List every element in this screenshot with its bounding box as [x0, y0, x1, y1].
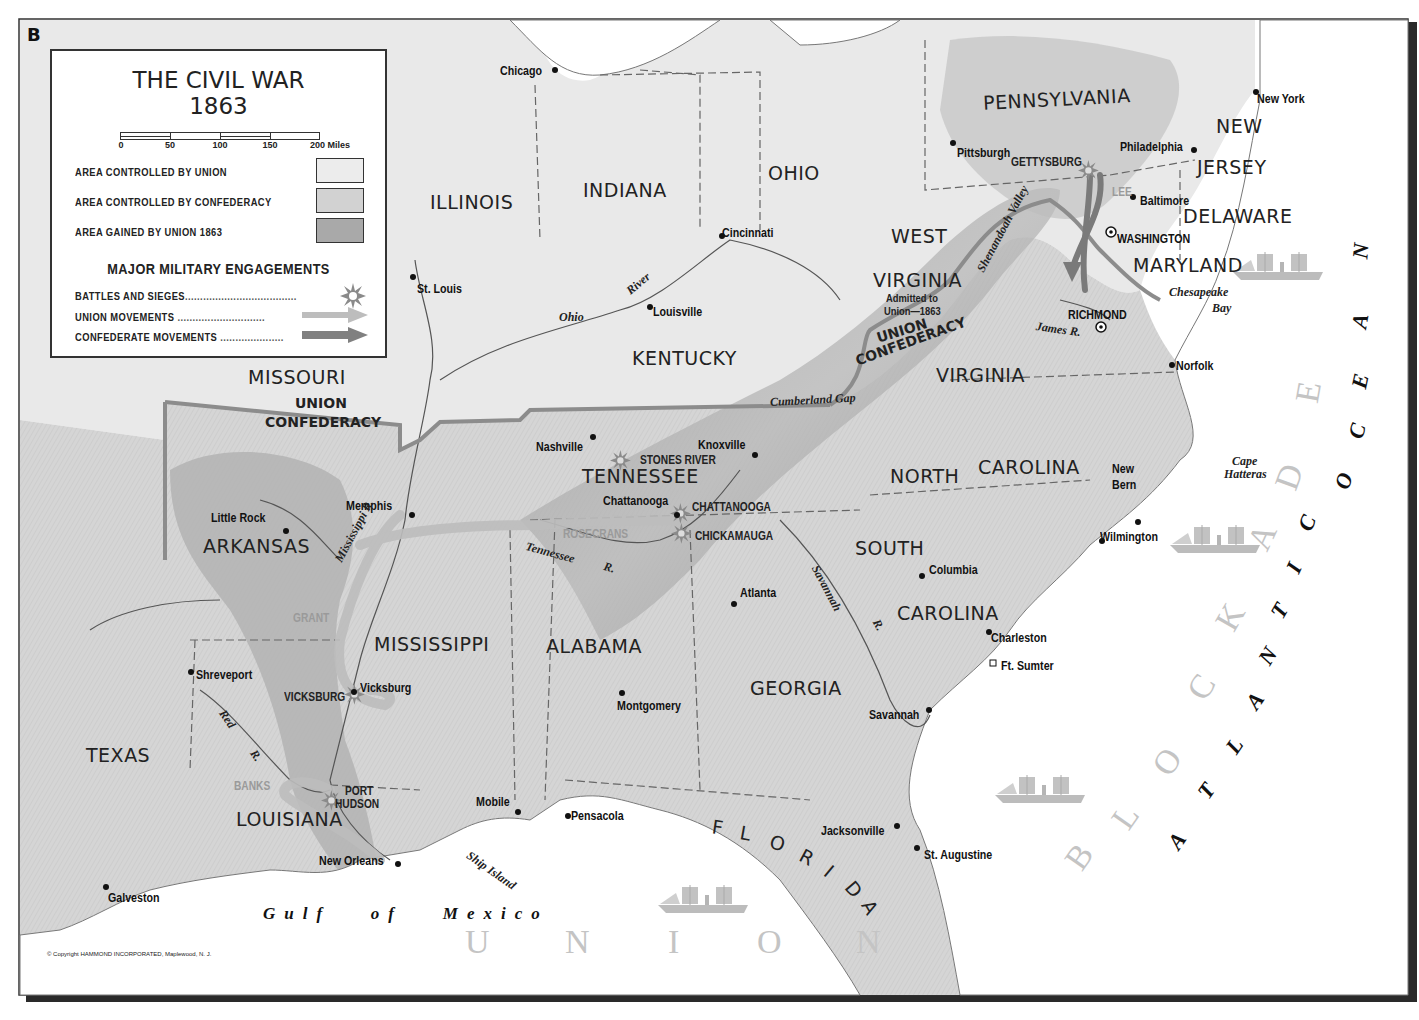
city-label: Philadelphia — [1120, 140, 1183, 153]
battle-burst-icon — [340, 283, 366, 309]
general-label: BANKS — [234, 780, 270, 792]
city-label: Chicago — [500, 64, 542, 77]
city-label: Atlanta — [740, 586, 776, 599]
city-dot — [752, 452, 758, 458]
city-dot — [188, 669, 194, 675]
battle-label: HUDSON — [335, 798, 379, 810]
city-dot — [351, 689, 357, 695]
union-blockade-letter: N — [565, 925, 590, 959]
city-label: New Orleans — [319, 854, 384, 867]
confederacy-area-swatch — [316, 188, 364, 213]
city-label: Norfolk — [1176, 359, 1213, 372]
city-dot — [926, 707, 932, 713]
city-dot — [409, 512, 415, 518]
union-arrow-icon — [302, 307, 368, 323]
city-dot — [619, 690, 625, 696]
state-label: GEORGIA — [750, 679, 842, 698]
city-dot — [515, 809, 521, 815]
city-label: St. Louis — [417, 282, 462, 295]
admitted-note: Admitted to — [886, 293, 938, 304]
city-label: Knoxville — [698, 438, 745, 451]
state-label: NORTH — [890, 467, 959, 486]
scale-tick: 150 — [262, 140, 277, 150]
city-label: New — [1112, 462, 1134, 475]
city-dot — [552, 67, 558, 73]
river-label: Hatteras — [1224, 468, 1267, 480]
state-label: JERSEY — [1197, 158, 1266, 177]
state-label: OHIO — [768, 164, 820, 183]
city-label: Charleston — [991, 631, 1047, 644]
scale-bar — [120, 132, 320, 140]
city-label: Jacksonville — [821, 824, 884, 837]
state-label: INDIANA — [583, 181, 667, 200]
scale-tick: 100 — [212, 140, 227, 150]
state-label: NEW — [1216, 117, 1263, 136]
state-label: LOUISIANA — [236, 810, 343, 829]
state-label: MARYLAND — [1133, 256, 1243, 275]
legend-year: 1863 — [52, 95, 385, 118]
engagements-title: MAJOR MILITARY ENGAGEMENTS — [77, 260, 360, 277]
city-label: Pittsburgh — [957, 146, 1010, 159]
city-label: Louisville — [653, 305, 702, 318]
city-label: Chattanooga — [603, 494, 668, 507]
city-dot — [410, 274, 416, 280]
state-label: ARKANSAS — [203, 537, 310, 556]
battle-label: CHATTANOOGA — [692, 501, 771, 513]
city-label: WASHINGTON — [1117, 232, 1190, 245]
legend-title: THE CIVIL WAR — [52, 69, 385, 92]
city-label: Vicksburg — [360, 681, 411, 694]
city-label: Wilmington — [1100, 530, 1158, 543]
union-blockade-letter: U — [465, 925, 490, 959]
city-dot — [395, 861, 401, 867]
legend-battles-label: BATTLES AND SIEGES......................… — [75, 290, 297, 302]
battle-label: PORT — [345, 785, 373, 797]
boundary-label: UNION — [295, 396, 347, 410]
state-label: ILLINOIS — [430, 193, 513, 212]
city-label: Bern — [1112, 478, 1136, 491]
admitted-note: Union—1863 — [884, 306, 941, 317]
state-label: VIRGINIA — [936, 366, 1025, 385]
battle-label: CHICKAMAUGA — [695, 530, 773, 542]
state-label: ALABAMA — [546, 637, 642, 656]
state-label: MISSISSIPPI — [374, 635, 489, 654]
state-label: TEXAS — [86, 746, 150, 765]
city-dot — [894, 823, 900, 829]
general-label: ROSECRANS — [563, 528, 628, 540]
ft-sumter-marker — [990, 660, 996, 666]
legend-confederate-movements-label: CONFEDERATE MOVEMENTS ..................… — [75, 331, 284, 343]
scale-tick: 200 Miles — [310, 140, 350, 150]
river-label: Bay — [1212, 302, 1231, 314]
city-label: Mobile — [476, 795, 510, 808]
legend-gained-area-label: AREA GAINED BY UNION 1863 — [75, 226, 222, 238]
river-label: Ohio — [559, 311, 584, 323]
state-label: VIRGINIA — [873, 271, 962, 290]
union-blockade-letter: I — [668, 925, 679, 959]
city-label: Cincinnati — [722, 226, 774, 239]
state-label: MISSOURI — [248, 368, 346, 387]
city-dot — [1135, 519, 1141, 525]
city-dot — [283, 528, 289, 534]
scale-tick: 50 — [165, 140, 175, 150]
city-label: Ft. Sumter — [1001, 659, 1054, 672]
city-dot — [914, 845, 920, 851]
state-label: SOUTH — [855, 539, 924, 558]
legend-union-area-label: AREA CONTROLLED BY UNION — [75, 166, 227, 178]
battle-label: GETTYSBURG — [1011, 156, 1082, 168]
gulf-of-mexico-label: Gulf of Mexico — [263, 905, 549, 922]
river-label: Cape — [1232, 455, 1257, 467]
general-label: LEE — [1112, 186, 1132, 198]
legend-union-movements-label: UNION MOVEMENTS ........................… — [75, 311, 265, 323]
city-dot — [731, 601, 737, 607]
atlantic-ocean-letter: N — [1349, 242, 1372, 260]
city-label: Nashville — [536, 440, 583, 453]
city-label: RICHMOND — [1068, 308, 1127, 321]
city-label: New York — [1257, 92, 1305, 105]
river-label: Chesapeake — [1169, 286, 1228, 298]
confederate-arrow-icon — [302, 327, 368, 343]
state-label: KENTUCKY — [632, 349, 737, 368]
scale-tick: 0 — [118, 140, 123, 150]
city-label: Shreveport — [196, 668, 252, 681]
city-dot — [1191, 147, 1197, 153]
union-blockade-letter: O — [757, 925, 782, 959]
gained-area-swatch — [316, 218, 364, 243]
